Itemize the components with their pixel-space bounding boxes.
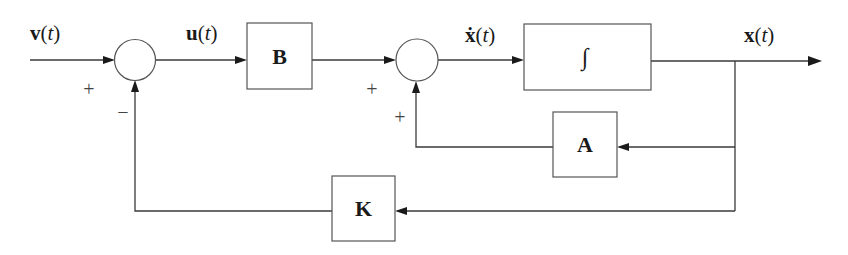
signal-u-symbol: u <box>186 21 198 45</box>
signal-v-symbol: v <box>30 21 41 45</box>
signal-label-u: u(t) <box>186 21 218 45</box>
svg-text:ẋ(t): ẋ(t) <box>465 23 495 47</box>
arrowhead-into-sum2 <box>384 56 396 64</box>
signal-xdot-symbol: ẋ <box>465 23 476 47</box>
block-diagram: B ∫ A K v(t) u(t) ẋ(t) x(t) + − + + <box>0 0 848 255</box>
arrowhead-sum2-bottom <box>412 81 420 93</box>
sum1-minus-sign: − <box>117 101 128 123</box>
signal-label-v: v(t) <box>30 21 60 45</box>
block-a-label: A <box>577 132 593 157</box>
wire-k-feedback <box>135 88 332 211</box>
wire-a-feedback <box>416 88 553 147</box>
arrowhead-sum1-bottom <box>131 80 139 92</box>
sum1-plus-sign: + <box>83 78 94 100</box>
sum2-plus-sign-left: + <box>366 78 377 100</box>
arrowhead-into-b <box>235 56 247 64</box>
arrowhead-into-sum1 <box>103 56 115 64</box>
arrowhead-into-a <box>617 143 629 151</box>
svg-text:v(t): v(t) <box>30 21 60 45</box>
block-k-label: K <box>355 196 372 221</box>
arrowhead-output <box>808 56 822 66</box>
integral-icon: ∫ <box>580 44 590 72</box>
svg-text:x(t): x(t) <box>744 23 774 47</box>
sum2-plus-sign-bottom: + <box>394 106 405 128</box>
summing-junction-2 <box>396 39 438 81</box>
arrowhead-into-k <box>395 207 407 215</box>
signal-label-xdot: ẋ(t) <box>465 23 495 47</box>
signal-label-x: x(t) <box>744 23 774 47</box>
arrowhead-into-integrator <box>512 56 524 64</box>
summing-junction-1 <box>115 40 156 81</box>
signal-x-symbol: x <box>744 23 755 47</box>
svg-text:u(t): u(t) <box>186 21 218 45</box>
block-b-label: B <box>272 44 287 69</box>
